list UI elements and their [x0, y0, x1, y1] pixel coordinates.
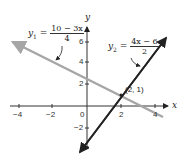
- x-tick-label: 2: [119, 110, 123, 119]
- pointer-y2: [131, 58, 140, 66]
- y-tick-label: −2: [74, 123, 83, 132]
- pointer-y1: [56, 46, 62, 60]
- equation-y2: y2 = 4x − 62: [108, 37, 159, 56]
- x-tick-label: −2: [46, 110, 55, 119]
- equation-y1: y1 = 10 − 3x4: [28, 24, 84, 43]
- y-axis-label: y: [85, 12, 90, 22]
- x-tick-label: −4: [13, 110, 22, 119]
- x-tick-label: 0: [80, 110, 84, 119]
- y-tick-label: 2: [79, 79, 83, 88]
- intersection-label: (2, 1): [125, 85, 144, 94]
- x-tick-label: 4: [153, 110, 157, 119]
- y-tick-label: 4: [79, 57, 83, 66]
- x-axis-label: x: [172, 100, 177, 110]
